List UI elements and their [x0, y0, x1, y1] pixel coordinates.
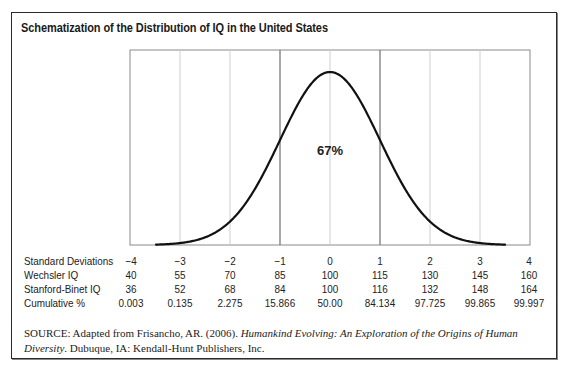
table-cell-stanford-binet: 116 [353, 282, 407, 296]
table-cell-sd: −1 [253, 254, 307, 268]
table-cell-stanford-binet: 52 [153, 282, 207, 296]
table-cell-sd: 1 [353, 254, 407, 268]
table-cell-cumulative: 0.135 [153, 296, 207, 310]
source-citation: SOURCE: Adapted from Frisancho, AR. (200… [24, 326, 544, 356]
table-cell-wechsler: 115 [353, 268, 407, 282]
bell-curve-chart: 67% [0, 0, 567, 375]
table-cell-stanford-binet: 100 [303, 282, 357, 296]
table-cell-cumulative: 2.275 [203, 296, 257, 310]
table-cell-cumulative: 97.725 [403, 296, 457, 310]
table-cell-stanford-binet: 68 [203, 282, 257, 296]
row-label-standard-deviations: Standard Deviations [24, 254, 113, 268]
table-cell-cumulative: 50.00 [303, 296, 357, 310]
table-cell-wechsler: 40 [104, 268, 158, 282]
source-text-after: . Dubuque, IA: Kendall-Hunt Publishers, … [64, 342, 264, 354]
table-cell-sd: 2 [403, 254, 457, 268]
table-cell-sd: 4 [502, 254, 556, 268]
table-cell-wechsler: 100 [303, 268, 357, 282]
row-label-wechsler: Wechsler IQ [24, 268, 78, 282]
table-cell-cumulative: 99.865 [453, 296, 507, 310]
table-cell-sd: −3 [153, 254, 207, 268]
table-cell-wechsler: 145 [453, 268, 507, 282]
table-cell-wechsler: 70 [203, 268, 257, 282]
table-cell-wechsler: 130 [403, 268, 457, 282]
table-cell-stanford-binet: 36 [104, 282, 158, 296]
source-label: SOURCE: [24, 327, 70, 339]
table-cell-cumulative: 99.997 [502, 296, 556, 310]
table-cell-cumulative: 84.134 [353, 296, 407, 310]
percent-annotation: 67% [317, 143, 343, 158]
table-cell-sd: 0 [303, 254, 357, 268]
table-cell-sd: 3 [453, 254, 507, 268]
table-cell-stanford-binet: 132 [403, 282, 457, 296]
table-cell-stanford-binet: 148 [453, 282, 507, 296]
table-cell-wechsler: 85 [253, 268, 307, 282]
table-cell-cumulative: 0.003 [104, 296, 158, 310]
table-cell-wechsler: 160 [502, 268, 556, 282]
table-cell-sd: −2 [203, 254, 257, 268]
table-cell-stanford-binet: 164 [502, 282, 556, 296]
table-cell-stanford-binet: 84 [253, 282, 307, 296]
row-label-stanford-binet: Stanford-Binet IQ [24, 282, 101, 296]
table-cell-wechsler: 55 [153, 268, 207, 282]
source-text: Adapted from Frisancho, AR. (2006). [70, 327, 240, 339]
row-label-cumulative: Cumulative % [24, 296, 85, 310]
table-cell-sd: −4 [104, 254, 158, 268]
table-cell-cumulative: 15.866 [253, 296, 307, 310]
